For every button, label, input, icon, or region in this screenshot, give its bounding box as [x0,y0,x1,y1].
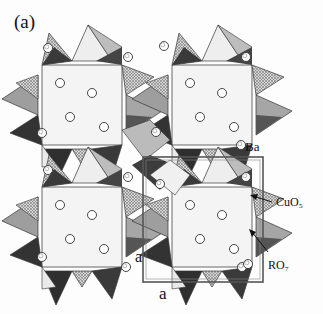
cuo5-legend-label: CuO₅ [276,196,303,208]
ro7-legend-label: RO₇ [268,259,289,271]
ba-atom [38,129,47,138]
panel-label: (a) [14,12,35,31]
ba-atom [160,42,169,51]
ba-atom [122,263,131,272]
pinwheel-cluster [2,147,162,305]
ba-legend-label: Ba [245,140,259,153]
ba-atom [156,180,165,189]
ba-atom [152,128,161,137]
ba-atom [38,253,47,262]
ba-atom [124,173,133,182]
axis-a-vertical-label: a [135,249,142,265]
ba-atom [242,53,251,62]
crystal-structure-figure: (a) Ba CuO₅ RO₇ a a [0,0,323,314]
ba-atom [44,44,53,53]
ba-atom [242,173,251,182]
ba-atom [124,53,133,62]
ba-atom [244,260,253,269]
ba-atom [44,166,53,175]
axis-a-horizontal-label: a [159,285,167,302]
pinwheel-cluster [2,25,162,183]
